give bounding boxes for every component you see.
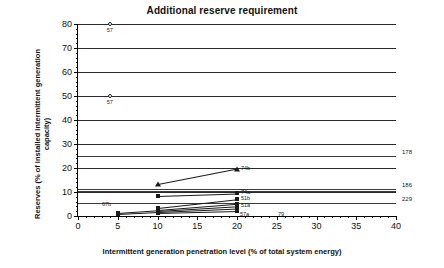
x-minor-tick <box>205 216 206 218</box>
data-point-67b <box>116 212 120 216</box>
y-tick-mark <box>74 144 78 145</box>
data-point-74a <box>156 194 160 198</box>
gridline-extra <box>78 189 396 190</box>
y-tick-label: 0 <box>54 211 72 221</box>
gridline-horizontal <box>78 72 396 73</box>
y-tick-label: 60 <box>54 67 72 77</box>
y-minor-tick <box>76 158 78 159</box>
x-minor-tick <box>301 216 302 218</box>
gridline-extra <box>78 156 396 157</box>
x-minor-tick <box>94 216 95 218</box>
y-minor-tick <box>76 67 78 68</box>
data-point-57-mid <box>108 94 112 98</box>
x-minor-tick <box>102 216 103 218</box>
y-axis-title: Reserves (% of installed intermittent ge… <box>33 44 52 224</box>
y-minor-tick <box>76 173 78 174</box>
series-label-57-mid: 57 <box>107 100 113 106</box>
edge-label-229: 229 <box>402 196 412 202</box>
x-minor-tick <box>221 216 222 218</box>
series-label-57-high: 57 <box>107 28 113 34</box>
data-point-74a <box>235 191 239 195</box>
y-minor-tick <box>76 53 78 54</box>
x-tick-mark <box>237 216 238 220</box>
x-tick-label: 30 <box>304 221 330 231</box>
series-label-51b: 51b <box>241 196 250 202</box>
x-minor-tick <box>372 216 373 218</box>
series-line <box>158 193 238 196</box>
x-minor-tick <box>380 216 381 218</box>
y-tick-mark <box>74 192 78 193</box>
x-tick-mark <box>356 216 357 220</box>
y-minor-tick <box>76 163 78 164</box>
y-minor-tick <box>76 139 78 140</box>
gridline-horizontal <box>78 96 396 97</box>
x-minor-tick <box>86 216 87 218</box>
x-tick-label: 0 <box>65 221 91 231</box>
x-minor-tick <box>229 216 230 218</box>
data-point-74b <box>155 182 161 187</box>
x-minor-tick <box>253 216 254 218</box>
series-label-51a: 51a <box>241 203 250 209</box>
x-tick-label: 15 <box>184 221 210 231</box>
y-tick-mark <box>74 24 78 25</box>
y-minor-tick <box>76 178 78 179</box>
y-tick-mark <box>74 120 78 121</box>
x-tick-label: 20 <box>224 221 250 231</box>
gridline-horizontal <box>78 120 396 121</box>
chart-container: Additional reserve requirement 010203040… <box>0 0 444 268</box>
y-minor-tick <box>76 115 78 116</box>
y-tick-label: 80 <box>54 19 72 29</box>
x-tick-mark <box>78 216 79 220</box>
x-minor-tick <box>165 216 166 218</box>
x-minor-tick <box>173 216 174 218</box>
x-minor-tick <box>189 216 190 218</box>
x-minor-tick <box>142 216 143 218</box>
x-minor-tick <box>181 216 182 218</box>
plot-area: 010203040506070800510152025303540575774b… <box>77 24 396 217</box>
x-minor-tick <box>340 216 341 218</box>
x-minor-tick <box>348 216 349 218</box>
x-minor-tick <box>110 216 111 218</box>
x-minor-tick <box>309 216 310 218</box>
y-tick-mark <box>74 96 78 97</box>
series-line <box>158 169 238 186</box>
x-tick-mark <box>317 216 318 220</box>
x-minor-tick <box>261 216 262 218</box>
y-tick-label: 10 <box>54 187 72 197</box>
y-minor-tick <box>76 43 78 44</box>
y-minor-tick <box>76 101 78 102</box>
y-minor-tick <box>76 197 78 198</box>
x-minor-tick <box>285 216 286 218</box>
y-minor-tick <box>76 206 78 207</box>
x-tick-label: 5 <box>105 221 131 231</box>
data-point-74b <box>234 166 240 171</box>
y-tick-label: 20 <box>54 163 72 173</box>
y-minor-tick <box>76 29 78 30</box>
x-minor-tick <box>324 216 325 218</box>
series-label-67b: 67b <box>102 202 111 208</box>
series-label-57a: 57a <box>240 212 249 218</box>
y-minor-tick <box>76 110 78 111</box>
y-minor-tick <box>76 130 78 131</box>
gridline-horizontal <box>78 144 396 145</box>
x-minor-tick <box>388 216 389 218</box>
x-minor-tick <box>126 216 127 218</box>
x-minor-tick <box>364 216 365 218</box>
x-minor-tick <box>213 216 214 218</box>
y-minor-tick <box>76 106 78 107</box>
x-axis-title: Intermittent generation penetration leve… <box>0 247 444 256</box>
x-tick-label: 35 <box>343 221 369 231</box>
y-minor-tick <box>76 187 78 188</box>
y-minor-tick <box>76 202 78 203</box>
y-minor-tick <box>76 134 78 135</box>
series-label-79: 79 <box>278 212 284 218</box>
y-tick-mark <box>74 72 78 73</box>
y-minor-tick <box>76 182 78 183</box>
y-minor-tick <box>76 58 78 59</box>
x-minor-tick <box>134 216 135 218</box>
y-minor-tick <box>76 34 78 35</box>
y-tick-label: 30 <box>54 139 72 149</box>
y-minor-tick <box>76 149 78 150</box>
y-minor-tick <box>76 154 78 155</box>
y-tick-label: 50 <box>54 91 72 101</box>
